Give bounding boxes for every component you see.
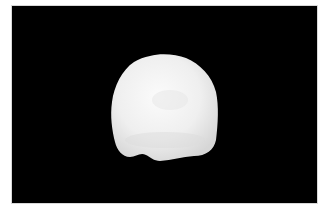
tooth-crown-image: [0, 0, 328, 212]
